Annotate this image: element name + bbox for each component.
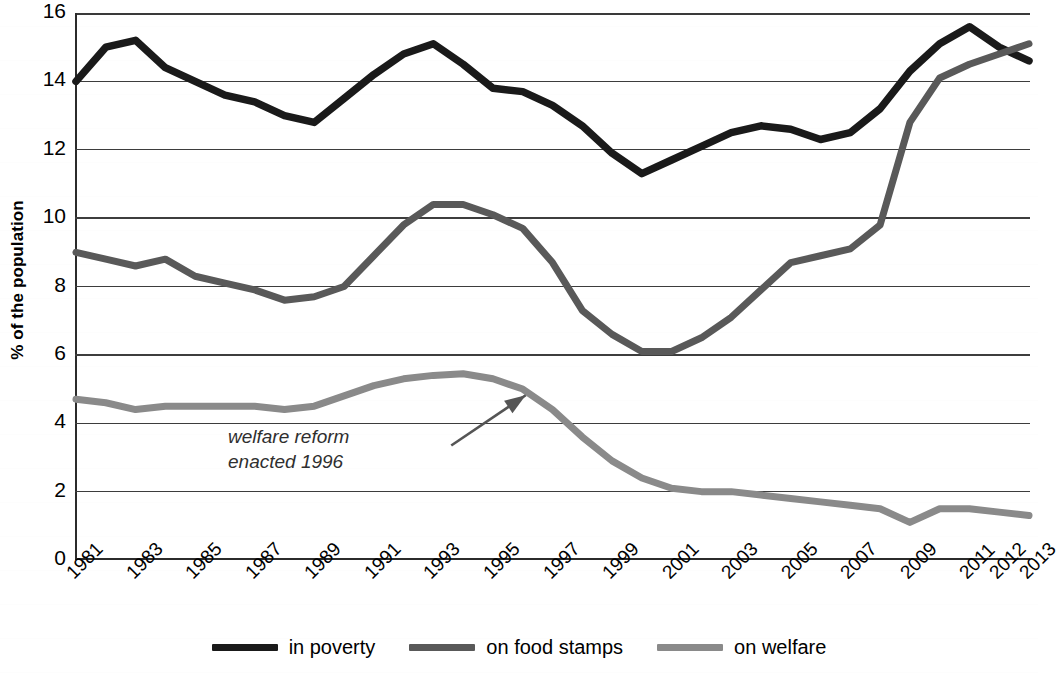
legend-label: on welfare: [734, 636, 826, 659]
x-tick-label-2005: 2005: [777, 538, 822, 583]
x-tick-label-2003: 2003: [717, 538, 762, 583]
x-tick-label-1983: 1983: [122, 538, 167, 583]
x-tick-label-1981: 1981: [62, 538, 107, 583]
x-tick-label-2007: 2007: [836, 538, 881, 583]
legend-swatch-icon: [212, 644, 278, 651]
x-tick-label-2001: 2001: [658, 538, 703, 583]
legend-swatch-icon: [657, 644, 723, 651]
x-tick-label-1995: 1995: [479, 538, 524, 583]
x-tick-label-1985: 1985: [181, 538, 226, 583]
legend-label: in poverty: [289, 636, 376, 659]
legend-item-on-welfare[interactable]: on welfare: [657, 636, 826, 659]
x-tick-label-1991: 1991: [360, 538, 405, 583]
x-tick-label-1999: 1999: [598, 538, 643, 583]
x-tick-label-1987: 1987: [241, 538, 286, 583]
x-tick-label-1997: 1997: [539, 538, 584, 583]
legend-item-in-poverty[interactable]: in poverty: [212, 636, 376, 659]
x-tick-label-1989: 1989: [300, 538, 345, 583]
legend-swatch-icon: [409, 644, 475, 651]
legend-item-on-food-stamps[interactable]: on food stamps: [409, 636, 623, 659]
x-tick-label-2009: 2009: [896, 538, 941, 583]
chart-legend: in povertyon food stampson welfare: [0, 636, 1038, 659]
legend-label: on food stamps: [486, 636, 623, 659]
x-tick-label-1993: 1993: [419, 538, 464, 583]
